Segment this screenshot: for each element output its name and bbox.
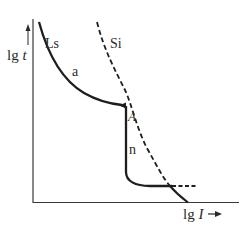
diagram-canvas: lg t Ls Si a A n lg I xyxy=(0,0,250,233)
x-axis-label: lg I xyxy=(183,206,204,222)
x-axis-arrow-icon xyxy=(208,211,222,217)
y-axis-arrow-icon xyxy=(26,24,31,45)
y-axis-label: lg t xyxy=(7,47,27,63)
region-label-a: a xyxy=(72,64,79,79)
curve-label-ls: Ls xyxy=(45,36,59,51)
point-label-a: A xyxy=(127,109,136,124)
ls-curve-a xyxy=(39,22,122,105)
si-curve-dashed xyxy=(97,22,170,186)
curve-label-si: Si xyxy=(110,36,122,51)
region-label-n: n xyxy=(129,142,136,157)
si-curve-solid xyxy=(170,186,188,203)
